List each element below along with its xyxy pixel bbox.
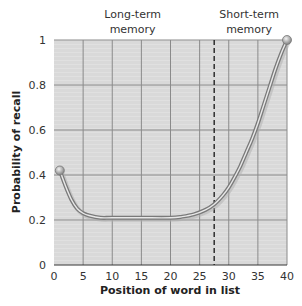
x-tick-label: 20 [164,270,178,283]
x-axis-ticks: 0510152025303540 [51,270,295,283]
x-tick-label: 0 [51,270,58,283]
x-tick-label: 25 [193,270,207,283]
y-tick-label: 0.8 [29,79,47,92]
long-term-memory-label-line2: memory [110,23,156,36]
x-tick-label: 40 [280,270,294,283]
y-tick-label: 0.2 [29,214,47,227]
x-tick-label: 5 [80,270,87,283]
x-tick-label: 10 [105,270,119,283]
short-term-memory-label-line2: memory [226,23,272,36]
y-tick-label: 0 [39,259,46,272]
y-tick-label: 0.4 [29,169,47,182]
y-axis-title: Probability of recall [10,91,23,213]
x-tick-label: 35 [251,270,265,283]
curve-start-knob [55,166,64,175]
curve-end-knob [283,36,292,45]
x-axis-title: Position of word in list [100,284,240,297]
x-tick-label: 15 [134,270,148,283]
short-term-memory-label-line1: Short-term [219,8,279,21]
y-axis-ticks: 00.20.40.60.81 [29,34,47,272]
long-term-memory-label-line1: Long-term [104,8,161,21]
y-tick-label: 1 [39,34,46,47]
y-tick-label: 0.6 [29,124,47,137]
serial-position-chart: 00.20.40.60.81 0510152025303540 Long-ter… [0,0,302,306]
x-tick-label: 30 [222,270,236,283]
